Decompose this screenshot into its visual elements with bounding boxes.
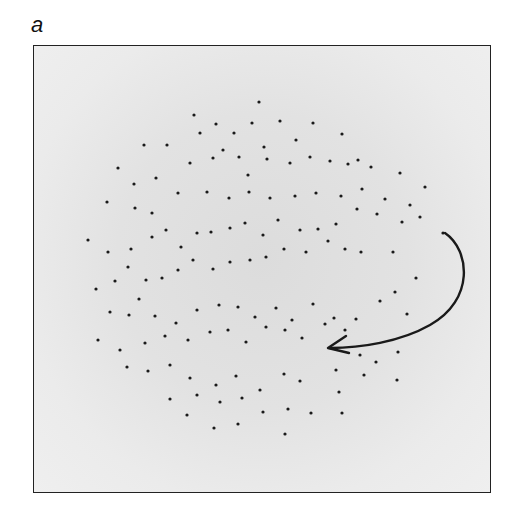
data-dot (290, 318, 293, 321)
data-dot (343, 328, 346, 331)
data-dot (414, 276, 417, 279)
data-dot (234, 374, 237, 377)
data-dot (221, 148, 224, 151)
data-dot (116, 166, 119, 169)
data-dot (326, 239, 329, 242)
data-dot (311, 302, 314, 305)
data-dot (358, 353, 361, 356)
data-dot (105, 200, 108, 203)
data-dot (243, 221, 246, 224)
data-dot (227, 196, 230, 199)
data-dot (374, 360, 377, 363)
data-dot (264, 325, 267, 328)
data-dot (232, 131, 235, 134)
data-dot (185, 413, 188, 416)
data-dot (423, 185, 426, 188)
data-dot (293, 194, 296, 197)
data-dot (127, 313, 130, 316)
data-dot (195, 393, 198, 396)
data-dot (258, 388, 261, 391)
data-dot (126, 265, 129, 268)
data-dot (268, 196, 271, 199)
data-dot (248, 258, 251, 261)
data-dot (362, 373, 365, 376)
data-dot (195, 308, 198, 311)
data-dot (360, 187, 363, 190)
data-dot (142, 143, 145, 146)
data-dot (118, 348, 121, 351)
data-dot (160, 276, 163, 279)
data-dot (96, 338, 99, 341)
data-dot (168, 363, 171, 366)
data-dot (294, 138, 297, 141)
data-dot (214, 383, 217, 386)
data-dot (405, 312, 408, 315)
data-dot (113, 279, 116, 282)
data-dot (163, 334, 166, 337)
data-dot (86, 238, 89, 241)
data-dot (311, 121, 314, 124)
data-dot (378, 299, 381, 302)
data-dot (150, 211, 153, 214)
data-dot (408, 203, 411, 206)
data-dot (146, 369, 149, 372)
data-dot (205, 190, 208, 193)
data-dot (396, 350, 399, 353)
data-dot (217, 303, 220, 306)
data-dot (337, 390, 340, 393)
data-dot (298, 379, 301, 382)
data-dot (276, 218, 279, 221)
data-dot (192, 113, 195, 116)
data-dot (356, 158, 359, 161)
data-dot (398, 171, 401, 174)
data-dot (314, 191, 317, 194)
data-dot (400, 220, 403, 223)
data-dot (418, 215, 421, 218)
data-dot (395, 378, 398, 381)
data-dot (165, 143, 168, 146)
data-dot (150, 235, 153, 238)
data-dot (334, 368, 337, 371)
data-dot (339, 194, 342, 197)
data-dot (369, 165, 372, 168)
data-dot (240, 396, 243, 399)
data-dot (264, 255, 267, 258)
data-dot (328, 159, 331, 162)
data-dot (288, 161, 291, 164)
data-dot (355, 207, 358, 210)
data-dot (247, 190, 250, 193)
data-dot (340, 411, 343, 414)
data-dot (228, 226, 231, 229)
data-dot (132, 182, 135, 185)
data-dot (261, 233, 264, 236)
data-dot (393, 290, 396, 293)
data-dot (153, 314, 156, 317)
data-dot (125, 365, 128, 368)
data-dot (346, 162, 349, 165)
data-dot (209, 230, 212, 233)
data-dot (154, 176, 157, 179)
data-dot (191, 258, 194, 261)
data-dot (343, 247, 346, 250)
data-dot (253, 315, 256, 318)
data-dot (129, 247, 132, 250)
data-dot (308, 155, 311, 158)
data-dot (143, 341, 146, 344)
data-dot (188, 376, 191, 379)
data-dot (186, 338, 189, 341)
dot-pattern (86, 100, 444, 435)
data-dot (226, 328, 229, 331)
data-dot (214, 122, 217, 125)
data-dot (304, 250, 307, 253)
data-dot (236, 422, 239, 425)
data-dot (195, 231, 198, 234)
data-dot (383, 197, 386, 200)
data-dot (282, 247, 285, 250)
data-dot (375, 212, 378, 215)
data-dot (340, 132, 343, 135)
figure-overlay (0, 0, 512, 508)
data-dot (246, 173, 249, 176)
data-dot (323, 322, 326, 325)
data-dot (298, 228, 301, 231)
data-dot (316, 227, 319, 230)
